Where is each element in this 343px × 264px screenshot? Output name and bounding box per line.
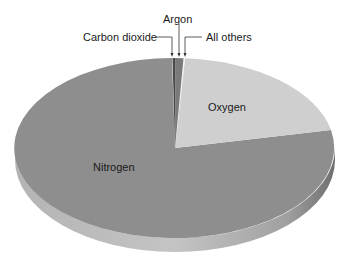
label-nitrogen: Nitrogen [93,161,135,173]
label-argon: Argon [163,13,192,25]
label-carbon-dioxide: Carbon dioxide [83,31,157,43]
leader-arrowheads [171,53,187,57]
pie-chart [0,0,343,264]
label-oxygen: Oxygen [208,101,246,113]
label-all-others: All others [206,31,252,43]
leader-lines [156,24,202,55]
